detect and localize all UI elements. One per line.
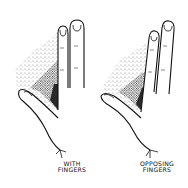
caption-line: FINGERS bbox=[132, 167, 182, 173]
caption-with-fingers: WITH FINGERS bbox=[52, 161, 92, 174]
right-hand-drawing bbox=[100, 21, 174, 158]
caption-line: FINGERS bbox=[52, 167, 92, 173]
caption-opposing-fingers: OPPOSING FINGERS bbox=[132, 161, 182, 174]
left-hand-drawing bbox=[15, 20, 84, 158]
